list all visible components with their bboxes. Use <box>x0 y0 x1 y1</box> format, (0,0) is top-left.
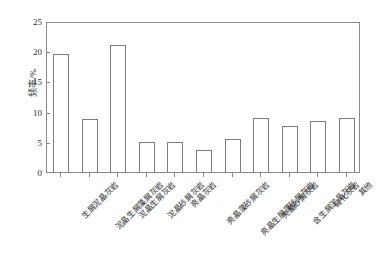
x-tick-mark <box>289 173 290 177</box>
y-tick-label: 5 <box>16 139 42 148</box>
bar <box>53 54 69 172</box>
bar-chart-figure: 频率/% 0510152025 生屑泥晶灰岩泥晶生屑藻屑灰岩泥晶生屑灰岩泥晶砂屑… <box>0 0 378 271</box>
plot-area <box>46 22 360 173</box>
x-tick-mark <box>346 173 347 177</box>
x-tick-mark <box>203 173 204 177</box>
x-axis-category-label-text: 其他 <box>356 180 374 198</box>
y-tick-mark <box>46 143 50 144</box>
x-axis-category-label: 亮晶砂屑灰岩 <box>280 180 320 220</box>
bar <box>225 139 241 172</box>
bar <box>253 118 269 172</box>
y-axis-tick-labels: 0510152025 <box>10 0 42 271</box>
y-tick-label: 15 <box>16 78 42 87</box>
bar <box>196 150 212 172</box>
y-tick-label: 25 <box>16 18 42 27</box>
bar <box>82 119 98 172</box>
bar <box>310 121 326 172</box>
x-axis-category-label-text: 亮晶砂屑灰岩 <box>280 180 320 220</box>
bar <box>167 142 183 172</box>
y-tick-label: 0 <box>16 169 42 178</box>
x-tick-mark <box>174 173 175 177</box>
x-axis-category-label: 其他 <box>356 180 374 198</box>
y-tick-label: 10 <box>16 109 42 118</box>
y-tick-mark <box>46 52 50 53</box>
x-tick-mark <box>146 173 147 177</box>
y-tick-label: 20 <box>16 48 42 57</box>
bar <box>139 142 155 172</box>
y-tick-mark <box>46 22 50 23</box>
x-tick-mark <box>260 173 261 177</box>
y-tick-mark <box>46 82 50 83</box>
bar <box>110 45 126 172</box>
x-axis-category-label-text: 生屑泥晶灰岩 <box>80 180 120 220</box>
x-axis-category-label-text: 亮晶藻砂屑灰岩 <box>225 180 271 226</box>
x-tick-mark <box>89 173 90 177</box>
x-axis-category-label: 生屑泥晶灰岩 <box>80 180 120 220</box>
bar <box>282 126 298 173</box>
x-tick-mark <box>232 173 233 177</box>
x-axis-category-label: 亮晶藻砂屑灰岩 <box>225 180 271 226</box>
x-tick-mark <box>60 173 61 177</box>
y-tick-mark <box>46 113 50 114</box>
bar <box>339 118 355 172</box>
x-tick-mark <box>117 173 118 177</box>
x-tick-mark <box>317 173 318 177</box>
bars-layer <box>47 23 359 172</box>
